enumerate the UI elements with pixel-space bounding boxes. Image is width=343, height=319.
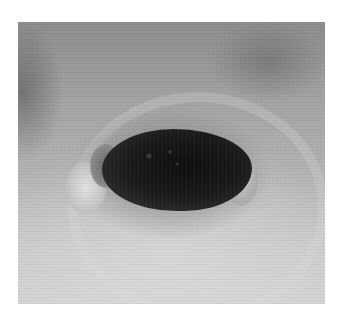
wound-photograph [18,22,325,304]
photo-grain [18,22,325,304]
